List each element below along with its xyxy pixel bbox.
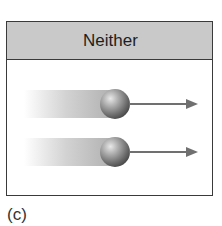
velocity-arrow-2 xyxy=(129,151,187,153)
arrow-head-icon xyxy=(186,99,198,109)
panel-header: Neither xyxy=(7,22,212,60)
sphere-icon xyxy=(100,89,130,119)
panel-header-label: Neither xyxy=(83,31,138,51)
figure-caption: (c) xyxy=(7,205,27,225)
velocity-arrow-1 xyxy=(129,103,187,105)
sphere-icon xyxy=(100,137,130,167)
arrow-head-icon xyxy=(186,147,198,157)
